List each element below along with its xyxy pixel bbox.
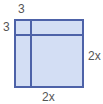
label-top: 3 bbox=[18, 3, 25, 15]
label-left: 3 bbox=[3, 21, 10, 33]
label-bottom: 2x bbox=[42, 91, 55, 103]
label-right: 2x bbox=[88, 50, 101, 62]
horizontal-divider bbox=[14, 34, 84, 36]
outer-square bbox=[14, 19, 84, 88]
vertical-divider bbox=[30, 19, 32, 88]
